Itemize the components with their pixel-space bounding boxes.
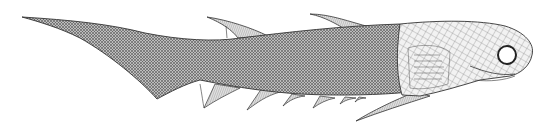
eye-icon <box>498 46 516 64</box>
fish-head <box>397 21 532 96</box>
fish-illustration: Fossil acanthodian fish reconstruction, … <box>0 0 543 127</box>
fish-drawing <box>0 0 543 127</box>
dorsal-fin-anterior <box>207 17 268 38</box>
